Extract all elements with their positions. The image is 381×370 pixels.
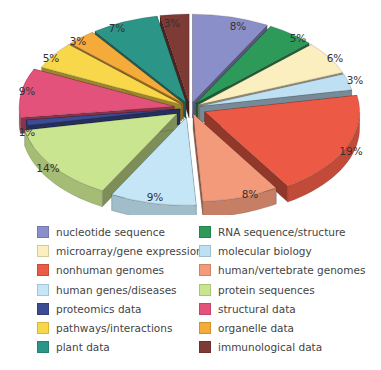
- slice-label: 6%: [327, 52, 344, 64]
- legend-item-proteomics-data: proteomics data: [37, 301, 199, 316]
- slice-label: 8%: [230, 20, 247, 32]
- slice-label: 1%: [19, 126, 36, 138]
- legend-label: RNA sequence/structure: [218, 226, 345, 238]
- legend-label: microarray/gene expression: [56, 245, 203, 257]
- chart-legend: nucleotide sequence RNA sequence/structu…: [37, 225, 367, 354]
- slice-label: 9%: [147, 191, 164, 203]
- legend-item-plant-data: plant data: [37, 340, 199, 355]
- legend-swatch: [37, 284, 49, 296]
- slice-label: 8%: [242, 188, 259, 200]
- legend-swatch: [37, 303, 49, 315]
- slice-label: 7%: [109, 22, 126, 34]
- legend-swatch: [37, 245, 49, 257]
- legend-swatch: [199, 284, 211, 296]
- slice-label: 3%: [347, 74, 364, 86]
- legend-label: structural data: [218, 303, 296, 315]
- legend-swatch: [199, 245, 211, 257]
- legend-label: pathways/interactions: [56, 322, 172, 334]
- slice-label: 3%: [164, 17, 181, 29]
- legend-swatch: [37, 226, 49, 238]
- legend-label: protein sequences: [218, 284, 315, 296]
- pie-chart: 8% 5% 6% 3% 19% 8% 9% 14% 1% 9% 5% 3% 7%…: [0, 0, 381, 215]
- legend-swatch: [37, 341, 49, 353]
- slice-label: 3%: [70, 35, 87, 47]
- legend-label: molecular biology: [218, 245, 312, 257]
- legend-label: nucleotide sequence: [56, 226, 165, 238]
- legend-label: human genes/diseases: [56, 284, 177, 296]
- legend-swatch: [199, 264, 211, 276]
- legend-item-nucleotide-sequence: nucleotide sequence: [37, 225, 199, 240]
- legend-label: immunological data: [218, 341, 322, 353]
- legend-swatch: [199, 341, 211, 353]
- legend-item-organelle-data: organelle data: [199, 320, 367, 335]
- legend-item-protein-sequences: protein sequences: [199, 282, 367, 297]
- legend-item-pathways-interactions: pathways/interactions: [37, 320, 199, 335]
- legend-item-human-genes-diseases: human genes/diseases: [37, 282, 199, 297]
- legend-item-structural-data: structural data: [199, 301, 367, 316]
- legend-label: proteomics data: [56, 303, 142, 315]
- legend-item-nonhuman-genomes: nonhuman genomes: [37, 263, 199, 278]
- legend-item-microarray: microarray/gene expression: [37, 244, 199, 259]
- legend-swatch: [199, 322, 211, 334]
- legend-label: human/vertebrate genomes: [218, 264, 365, 276]
- legend-swatch: [37, 264, 49, 276]
- legend-label: nonhuman genomes: [56, 264, 164, 276]
- slice-label: 5%: [290, 32, 307, 44]
- legend-item-immunological-data: immunological data: [199, 340, 367, 355]
- legend-swatch: [199, 226, 211, 238]
- legend-label: organelle data: [218, 322, 294, 334]
- slice-label: 14%: [36, 162, 59, 174]
- slice-label: 5%: [43, 52, 60, 64]
- legend-swatch: [37, 322, 49, 334]
- legend-item-human-vertebrate-genomes: human/vertebrate genomes: [199, 263, 367, 278]
- slice-label: 9%: [19, 85, 36, 97]
- legend-item-molecular-biology: molecular biology: [199, 244, 367, 259]
- legend-item-rna-sequence: RNA sequence/structure: [199, 225, 367, 240]
- slice-label: 19%: [339, 145, 362, 157]
- legend-swatch: [199, 303, 211, 315]
- legend-label: plant data: [56, 341, 110, 353]
- pie-chart-graphic: [0, 0, 381, 215]
